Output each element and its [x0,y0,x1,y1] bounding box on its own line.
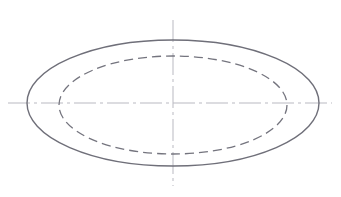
drawing-canvas [0,0,341,197]
ellipse-diagram-svg [0,0,341,197]
